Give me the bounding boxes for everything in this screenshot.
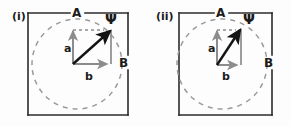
- vector-addition-figure: (i) A B Ψ a b: [0, 0, 291, 126]
- panel-i: (i) A B Ψ a b: [0, 0, 145, 126]
- panel-ii-label-a: a: [208, 43, 215, 54]
- panel-i-label-a: a: [64, 43, 71, 54]
- panel-ii-dashed-circle: [177, 19, 267, 109]
- panel-ii-tag: (ii): [156, 11, 174, 22]
- panel-i-label-a-axis: A: [72, 7, 81, 19]
- panel-ii-label-psi: Ψ: [243, 12, 255, 26]
- panel-ii-label-b: b: [222, 71, 230, 82]
- panel-ii-box: [179, 13, 272, 115]
- panel-i-label-b-axis: B: [119, 57, 128, 69]
- panel-i-label-psi: Ψ: [105, 12, 117, 26]
- panel-ii-vector-psi: [217, 30, 240, 65]
- panel-i-vector-psi: [73, 31, 110, 64]
- panel-i-label-b: b: [85, 71, 93, 82]
- panel-ii: (ii) A B Ψ a b: [146, 0, 291, 126]
- panel-i-tag: (i): [12, 11, 26, 22]
- panel-ii-label-a-axis: A: [216, 7, 225, 19]
- panel-ii-label-b-axis: B: [264, 57, 273, 69]
